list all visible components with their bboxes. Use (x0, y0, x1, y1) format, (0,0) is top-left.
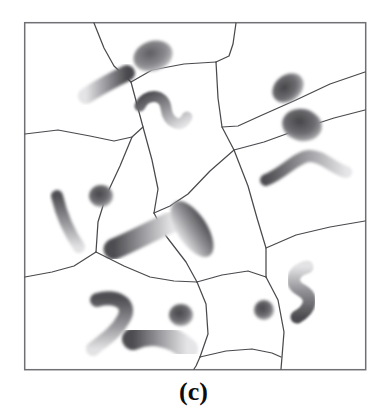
particle-small-round (89, 185, 113, 207)
micrograph-image (0, 0, 387, 378)
particle-bottom-round (169, 304, 193, 326)
panel-frame (25, 23, 366, 370)
particle-right-small-dot (254, 300, 274, 320)
figure-panel-c: (c) (0, 0, 387, 420)
micrograph-svg (0, 0, 387, 378)
figure-caption: (c) (0, 374, 387, 410)
particle-bottom-banana (133, 335, 187, 349)
